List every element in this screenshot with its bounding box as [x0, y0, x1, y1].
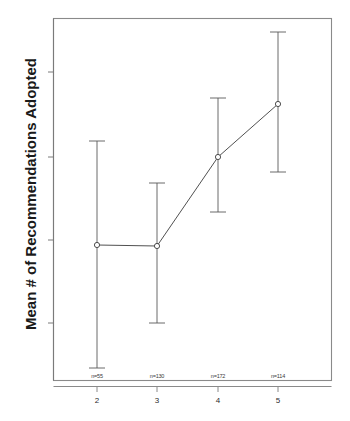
chart-background [0, 0, 350, 421]
x-tick-label-5: 5 [276, 396, 280, 405]
sample-size-label-x5: n=114 [271, 373, 285, 379]
sample-size-label-x2: n=55 [91, 373, 103, 379]
line-chart-with-error-bars [0, 0, 350, 421]
sample-size-label-x4: n=172 [211, 373, 225, 379]
data-point-x3 [154, 243, 159, 248]
data-point-x2 [94, 242, 99, 247]
x-tick-label-3: 3 [155, 396, 159, 405]
sample-size-label-x3: n=130 [150, 373, 164, 379]
chart-figure: Mean # of Recommendations Adopted 0.25 0… [0, 0, 350, 421]
data-point-x5 [275, 101, 280, 106]
x-tick-label-2: 2 [95, 396, 99, 405]
data-point-x4 [215, 154, 220, 159]
x-tick-label-4: 4 [216, 396, 220, 405]
